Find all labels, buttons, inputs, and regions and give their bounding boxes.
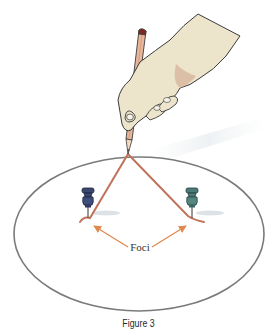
left-focus-arrow [94, 226, 128, 247]
right-pushpin-icon [186, 188, 198, 218]
hand-shadow [150, 118, 268, 160]
left-pin-shadow [92, 211, 120, 216]
ellipse-curve [14, 157, 264, 311]
figure-caption: Figure 3 [17, 318, 261, 329]
foci-label: Foci [130, 241, 150, 253]
right-focus-arrow [152, 226, 186, 247]
hand-illustration [118, 14, 240, 131]
ellipse-drawing-illustration: Foci [0, 0, 277, 336]
right-pin-shadow [196, 211, 224, 216]
